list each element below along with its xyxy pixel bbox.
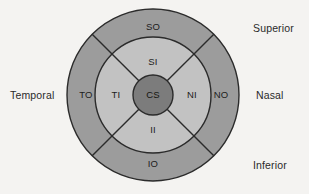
corneal-zone-svg: SO NO IO TO SI NI II TI CS Superior Nasa… bbox=[0, 0, 309, 194]
side-label-nasal: Nasal bbox=[256, 89, 284, 101]
side-label-inferior: Inferior bbox=[253, 159, 287, 171]
zone-label-io: IO bbox=[148, 158, 158, 169]
zone-label-ni: NI bbox=[187, 89, 197, 100]
zone-label-ii: II bbox=[150, 124, 156, 135]
zone-label-to: TO bbox=[79, 89, 92, 100]
zone-label-ti: TI bbox=[112, 89, 121, 100]
corneal-zone-diagram: SO NO IO TO SI NI II TI CS Superior Nasa… bbox=[0, 0, 309, 194]
side-label-superior: Superior bbox=[253, 22, 294, 34]
side-label-temporal: Temporal bbox=[10, 89, 54, 101]
zone-label-no: NO bbox=[214, 89, 229, 100]
zone-label-si: SI bbox=[148, 56, 157, 67]
zone-label-cs: CS bbox=[146, 89, 160, 100]
zone-label-so: SO bbox=[146, 21, 160, 32]
